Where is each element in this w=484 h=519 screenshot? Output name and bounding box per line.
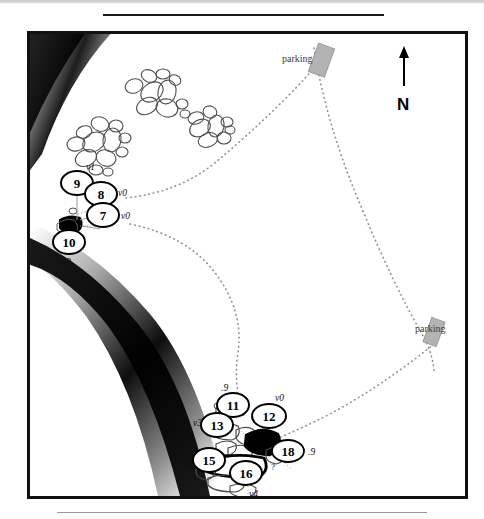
parking-label-east: parking [415, 324, 446, 334]
node-marker[interactable]: 16 [230, 461, 262, 485]
node-label-18: 18 [282, 444, 296, 459]
node-tag-13: v3 [193, 419, 202, 429]
parking-label-north: parking [282, 54, 313, 64]
node-label-11: 11 [227, 398, 239, 413]
node-marker[interactable]: 10 [53, 230, 85, 254]
node-label-12: 12 [263, 409, 276, 424]
map-frame: 9 8 7 10 11 13 [27, 31, 468, 499]
node-marker[interactable]: 7 [87, 203, 119, 227]
bottom-rule [57, 512, 427, 513]
node-label-7: 7 [100, 208, 107, 223]
node-tag-12: v0 [275, 394, 284, 404]
node-tag-15: .9 [185, 461, 192, 471]
node-tag-7: v0 [121, 212, 130, 222]
north-letter: N [397, 96, 409, 113]
figure-page: 9 8 7 10 11 13 [0, 0, 484, 519]
node-label-8: 8 [98, 187, 105, 202]
node-tag-11: .9 [221, 384, 228, 394]
node-marker[interactable]: 15 [193, 448, 225, 472]
node-label-9: 9 [74, 176, 81, 191]
node-tag-10: v3 [62, 258, 71, 268]
node-marker[interactable]: 12 [252, 404, 286, 428]
node-tag-8: v0 [118, 189, 127, 199]
node-marker[interactable]: 18 [272, 440, 304, 462]
node-tag-16: v4 [249, 490, 258, 499]
node-marker[interactable]: 13 [201, 413, 233, 437]
north-arrow-icon [399, 46, 409, 86]
top-rule [103, 14, 384, 16]
node-tag-9: v1 [86, 163, 95, 173]
node-label-15: 15 [203, 453, 217, 468]
node-label-16: 16 [240, 466, 254, 481]
node-label-13: 13 [211, 418, 225, 433]
page-top-band [0, 0, 484, 4]
node-label-10: 10 [63, 235, 76, 250]
question-marker: ? [271, 463, 275, 472]
node-tag-18: .9 [308, 448, 315, 458]
